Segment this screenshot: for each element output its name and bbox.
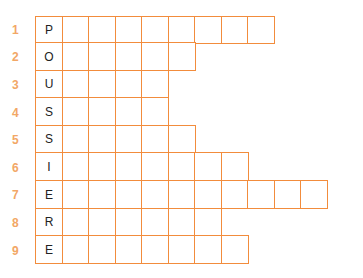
given-letter-cell: U	[35, 70, 63, 99]
given-letter-cell: S	[35, 125, 63, 154]
answer-cell[interactable]	[168, 16, 196, 44]
answer-cell[interactable]	[115, 235, 143, 264]
row-number: 7	[0, 182, 35, 210]
row-cells: P	[35, 16, 275, 44]
given-letter-cell: E	[35, 235, 63, 264]
answer-cell[interactable]	[115, 97, 143, 126]
answer-cell[interactable]	[115, 152, 143, 181]
row-number: 5	[0, 126, 35, 154]
answer-cell[interactable]	[141, 16, 169, 44]
answer-cell[interactable]	[62, 70, 90, 99]
row-cells: E	[35, 237, 249, 265]
crossword-grid: 1P2O3U4S5S6I7E8R9E	[0, 16, 328, 264]
answer-cell[interactable]	[141, 97, 169, 126]
answer-cell[interactable]	[115, 42, 143, 71]
answer-cell[interactable]	[62, 152, 90, 181]
answer-cell[interactable]	[141, 152, 169, 181]
answer-cell[interactable]	[62, 208, 90, 237]
grid-row: 1P	[0, 16, 328, 44]
grid-row: 7E	[0, 182, 328, 210]
grid-row: 2O	[0, 44, 328, 72]
row-number: 1	[0, 16, 35, 44]
answer-cell[interactable]	[141, 208, 169, 237]
answer-cell[interactable]	[62, 42, 90, 71]
row-cells: O	[35, 44, 196, 72]
answer-cell[interactable]	[62, 97, 90, 126]
given-letter-cell: R	[35, 208, 63, 237]
grid-row: 9E	[0, 237, 328, 265]
grid-row: 8R	[0, 209, 328, 237]
row-number: 8	[0, 209, 35, 237]
answer-cell[interactable]	[141, 125, 169, 154]
answer-cell[interactable]	[168, 208, 196, 237]
answer-cell[interactable]	[221, 180, 249, 209]
given-letter-cell: E	[35, 180, 63, 209]
grid-row: 4S	[0, 99, 328, 127]
answer-cell[interactable]	[194, 180, 222, 209]
given-letter-cell: I	[35, 152, 63, 181]
answer-cell[interactable]	[115, 180, 143, 209]
answer-cell[interactable]	[88, 152, 116, 181]
answer-cell[interactable]	[247, 16, 275, 44]
answer-cell[interactable]	[88, 42, 116, 71]
answer-cell[interactable]	[168, 42, 196, 71]
answer-cell[interactable]	[88, 235, 116, 264]
answer-cell[interactable]	[141, 235, 169, 264]
answer-cell[interactable]	[88, 125, 116, 154]
answer-cell[interactable]	[62, 235, 90, 264]
answer-cell[interactable]	[62, 125, 90, 154]
answer-cell[interactable]	[168, 125, 196, 154]
answer-cell[interactable]	[247, 180, 275, 209]
given-letter-cell: O	[35, 42, 63, 71]
row-cells: R	[35, 209, 222, 237]
answer-cell[interactable]	[194, 152, 222, 181]
answer-cell[interactable]	[62, 16, 90, 44]
answer-cell[interactable]	[88, 208, 116, 237]
answer-cell[interactable]	[115, 70, 143, 99]
row-number: 3	[0, 71, 35, 99]
row-cells: I	[35, 154, 249, 182]
answer-cell[interactable]	[88, 97, 116, 126]
grid-row: 3U	[0, 71, 328, 99]
answer-cell[interactable]	[194, 16, 222, 44]
answer-cell[interactable]	[115, 125, 143, 154]
answer-cell[interactable]	[221, 16, 249, 44]
answer-cell[interactable]	[300, 180, 328, 209]
answer-cell[interactable]	[168, 152, 196, 181]
answer-cell[interactable]	[141, 180, 169, 209]
answer-cell[interactable]	[141, 70, 169, 99]
grid-row: 5S	[0, 126, 328, 154]
answer-cell[interactable]	[274, 180, 302, 209]
answer-cell[interactable]	[115, 16, 143, 44]
given-letter-cell: P	[35, 16, 63, 44]
answer-cell[interactable]	[88, 70, 116, 99]
answer-cell[interactable]	[88, 180, 116, 209]
row-number: 9	[0, 237, 35, 265]
answer-cell[interactable]	[168, 180, 196, 209]
answer-cell[interactable]	[168, 235, 196, 264]
answer-cell[interactable]	[194, 235, 222, 264]
row-number: 4	[0, 99, 35, 127]
row-cells: S	[35, 99, 169, 127]
answer-cell[interactable]	[194, 208, 222, 237]
row-cells: E	[35, 182, 328, 210]
row-number: 2	[0, 44, 35, 72]
answer-cell[interactable]	[221, 152, 249, 181]
answer-cell[interactable]	[141, 42, 169, 71]
answer-cell[interactable]	[221, 235, 249, 264]
given-letter-cell: S	[35, 97, 63, 126]
row-cells: U	[35, 71, 169, 99]
answer-cell[interactable]	[115, 208, 143, 237]
answer-cell[interactable]	[88, 16, 116, 44]
answer-cell[interactable]	[62, 180, 90, 209]
row-number: 6	[0, 154, 35, 182]
grid-row: 6I	[0, 154, 328, 182]
row-cells: S	[35, 126, 196, 154]
